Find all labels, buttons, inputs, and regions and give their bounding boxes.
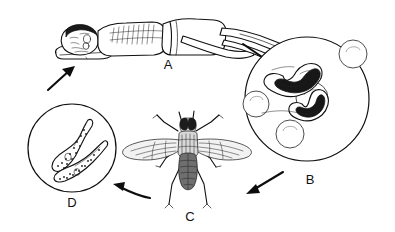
life-cycle-diagram: A	[0, 0, 395, 232]
blood-cell	[243, 91, 269, 117]
blood-cell	[339, 40, 367, 68]
stage-label-d: D	[67, 195, 76, 210]
fly-abdomen	[179, 153, 198, 190]
stage-label-c: C	[185, 209, 194, 224]
human-head	[61, 25, 98, 55]
stage-label-b: B	[306, 172, 315, 187]
human-torso	[98, 22, 166, 56]
diagram-canvas: A	[0, 0, 395, 232]
stage-label-a: A	[164, 57, 173, 72]
blood-cell	[276, 120, 304, 148]
